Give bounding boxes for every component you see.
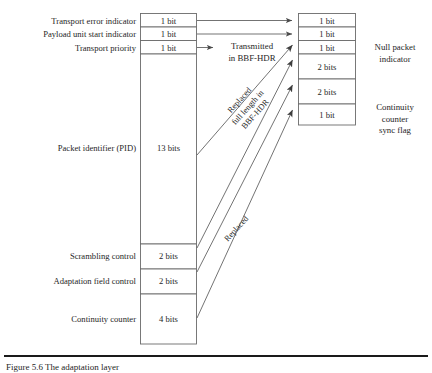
annotation-null-packet-indicator-line2: indicator <box>358 54 432 66</box>
cell-size-scrambling-control: 2 bits <box>140 251 197 261</box>
bbf-cell-size-5: 2 bits <box>298 87 356 97</box>
label-transport-priority: Transport priority <box>75 43 136 54</box>
cell-size-transport-error: 1 bit <box>140 16 197 26</box>
label-packet-identifier-pid: Packet identifier (PID) <box>58 143 136 154</box>
figure-divider-rule <box>4 355 428 357</box>
cell-size-continuity-counter: 4 bits <box>140 314 197 324</box>
label-adaptation-field-control: Adaptation field control <box>53 276 136 287</box>
bbf-cell-size-3: 1 bit <box>298 43 356 53</box>
annotation-null-packet-indicator-line1: Null packet <box>358 42 432 54</box>
bbf-cell-size-6: 1 bit <box>298 110 356 120</box>
annotation-continuity-counter-sync-flag: Continuity counter sync flag <box>358 102 432 137</box>
figure-caption: Figure 5.6 The adaptation layer <box>6 362 119 373</box>
annotation-continuity-sync-line1: Continuity <box>358 102 432 114</box>
cell-size-pid: 13 bits <box>140 143 197 153</box>
bbf-cell-size-4: 2 bits <box>298 62 356 72</box>
label-transport-error-indicator: Transport error indicator <box>51 16 136 27</box>
label-payload-unit-start-indicator: Payload unit start indicator <box>43 29 136 40</box>
annotation-transmitted-line1: Transmitted <box>213 41 291 53</box>
left-column-boxes <box>141 14 197 345</box>
label-continuity-counter: Continuity counter <box>71 314 136 325</box>
annotation-null-packet-indicator: Null packet indicator <box>358 42 432 65</box>
annotation-transmitted-in-bbf-hdr: Transmitted in BBF-HDR <box>213 41 291 64</box>
cell-size-payload-unit-start: 1 bit <box>140 29 197 39</box>
label-scrambling-control: Scrambling control <box>70 251 136 262</box>
annotation-transmitted-line2: in BBF-HDR <box>213 53 291 65</box>
bbf-cell-size-2: 1 bit <box>298 29 356 39</box>
cell-size-adaptation-field-control: 2 bits <box>140 276 197 286</box>
annotation-continuity-sync-line3: sync flag <box>358 125 432 137</box>
annotation-continuity-sync-line2: counter <box>358 114 432 126</box>
bbf-cell-size-1: 1 bit <box>298 16 356 26</box>
connector-arrows <box>197 21 293 319</box>
cell-size-transport-priority: 1 bit <box>140 43 197 53</box>
